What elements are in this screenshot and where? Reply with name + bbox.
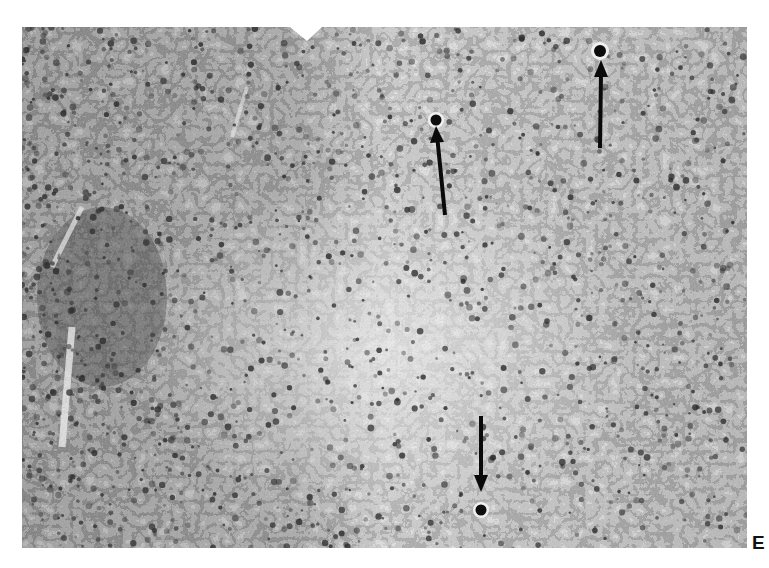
tissue-texture xyxy=(22,27,747,548)
figure-panel: E xyxy=(0,0,769,568)
micrograph-image xyxy=(22,27,747,548)
panel-label: E xyxy=(752,533,765,552)
